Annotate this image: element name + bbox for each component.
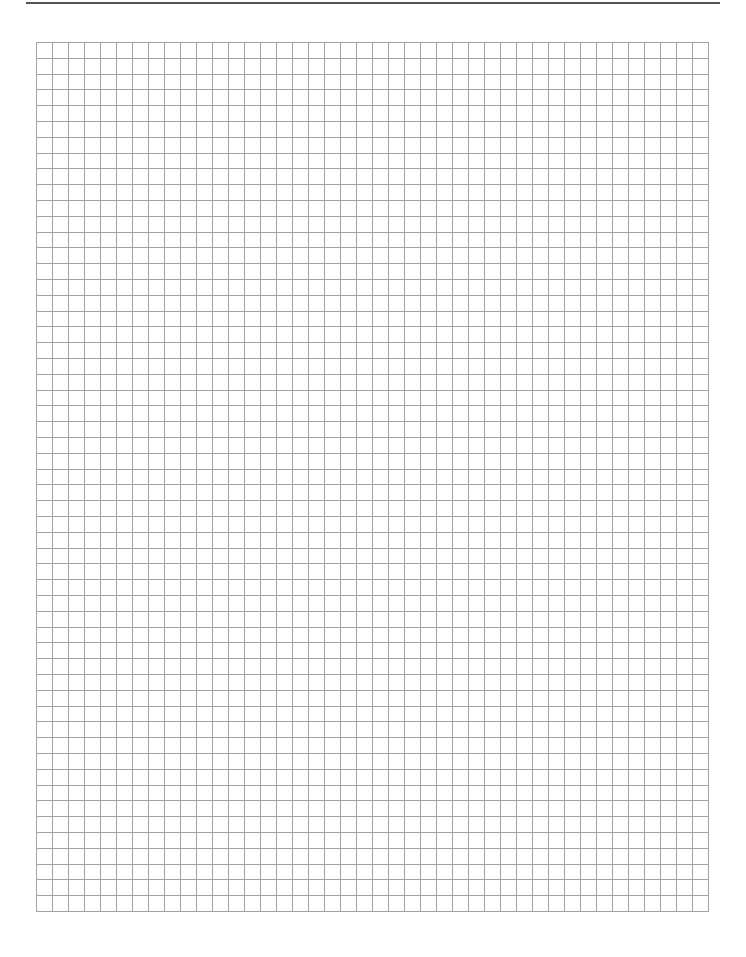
header-rule [26, 2, 720, 4]
grid-lines [36, 42, 709, 912]
graph-paper-grid [36, 42, 709, 912]
